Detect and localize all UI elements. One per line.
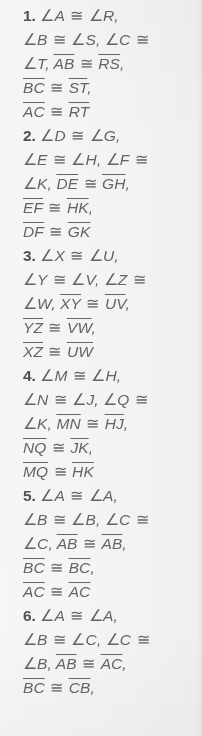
math-label: , — [90, 679, 94, 696]
item-number: 6. — [23, 607, 36, 624]
segment-name: CB — [69, 679, 91, 696]
segment-name: BC — [23, 79, 45, 96]
angle-icon: ∠ — [23, 271, 37, 288]
math-label: , — [89, 199, 93, 216]
angle-icon: ∠ — [40, 487, 54, 504]
congruent-icon: ≅ — [48, 463, 72, 480]
item-number: 4. — [23, 367, 36, 384]
congruent-icon: ≅ — [129, 391, 149, 408]
answer-line: 1. ∠A ≅ ∠R, — [23, 4, 200, 28]
math-label: H, — [106, 367, 122, 384]
answer-line: BC ≅ CB, — [23, 676, 200, 700]
math-label: , — [126, 175, 130, 192]
angle-icon: ∠ — [71, 511, 85, 528]
congruent-icon: ≅ — [43, 199, 67, 216]
answer-line: DF ≅ GK — [23, 220, 200, 244]
math-label: M — [54, 367, 67, 384]
segment-name: UW — [67, 343, 93, 360]
math-label: J, — [86, 391, 98, 408]
answer-item: 1. ∠A ≅ ∠R,∠B ≅ ∠S, ∠C ≅∠T, AB ≅ RS,BC ≅… — [23, 4, 200, 124]
angle-icon: ∠ — [103, 391, 117, 408]
math-label: , — [90, 559, 94, 576]
math-label: V, — [86, 271, 100, 288]
answer-line: ∠K, DE ≅ GH, — [23, 172, 200, 196]
answer-line: ∠W, XY ≅ UV, — [23, 292, 200, 316]
angle-icon: ∠ — [40, 367, 54, 384]
segment-name: VW — [67, 319, 92, 336]
angle-icon: ∠ — [89, 247, 103, 264]
item-number: 3. — [23, 247, 36, 264]
segment-name: YZ — [23, 319, 43, 336]
answer-line: ∠Y ≅ ∠V, ∠Z ≅ — [23, 268, 200, 292]
angle-icon: ∠ — [23, 511, 37, 528]
segment-name: AC — [23, 583, 45, 600]
math-label: C — [119, 31, 130, 48]
answer-line: ∠B, AB ≅ AC, — [23, 652, 200, 676]
angle-icon: ∠ — [71, 271, 85, 288]
angle-icon: ∠ — [105, 511, 119, 528]
angle-icon: ∠ — [40, 607, 54, 624]
segment-name: JK — [70, 439, 88, 456]
segment-name: AB — [56, 655, 77, 672]
segment-name: AC — [69, 583, 91, 600]
congruent-icon: ≅ — [81, 415, 105, 432]
angle-icon: ∠ — [89, 607, 103, 624]
angle-icon: ∠ — [91, 367, 105, 384]
angle-icon: ∠ — [106, 151, 120, 168]
math-label: B, — [86, 511, 101, 528]
math-label: , — [126, 295, 130, 312]
segment-name: BC — [69, 559, 91, 576]
segment-name: ST — [69, 79, 88, 96]
congruent-icon: ≅ — [65, 7, 89, 24]
math-label: B — [37, 511, 47, 528]
angle-icon: ∠ — [23, 175, 37, 192]
segment-name: AC — [23, 103, 45, 120]
congruent-icon: ≅ — [45, 583, 69, 600]
math-label: B — [37, 631, 47, 648]
segment-name: GH — [102, 175, 125, 192]
angle-icon: ∠ — [40, 7, 54, 24]
math-label: Q — [117, 391, 129, 408]
segment-name: EF — [23, 199, 43, 216]
angle-icon: ∠ — [23, 55, 37, 72]
segment-name: XZ — [23, 343, 43, 360]
segment-name: HJ — [105, 415, 124, 432]
math-label: U, — [103, 247, 119, 264]
congruent-icon: ≅ — [131, 631, 151, 648]
answer-line: ∠T, AB ≅ RS, — [23, 52, 200, 76]
answer-line: 5. ∠A ≅ ∠A, — [23, 484, 200, 508]
answer-line: 3. ∠X ≅ ∠U, — [23, 244, 200, 268]
angle-icon: ∠ — [23, 535, 37, 552]
angle-icon: ∠ — [89, 487, 103, 504]
angle-icon: ∠ — [90, 127, 104, 144]
segment-name: HK — [72, 463, 94, 480]
answer-item: 2. ∠D ≅ ∠G,∠E ≅ ∠H, ∠F ≅∠K, DE ≅ GH,EF ≅… — [23, 124, 200, 244]
answer-item: 4. ∠M ≅ ∠H,∠N ≅ ∠J, ∠Q ≅∠K, MN ≅ HJ,NQ ≅… — [23, 364, 200, 484]
congruent-icon: ≅ — [81, 295, 105, 312]
angle-icon: ∠ — [71, 631, 85, 648]
congruent-icon: ≅ — [130, 511, 150, 528]
answer-key-page: 1. ∠A ≅ ∠R,∠B ≅ ∠S, ∠C ≅∠T, AB ≅ RS,BC ≅… — [0, 0, 202, 736]
congruent-icon: ≅ — [65, 247, 89, 264]
congruent-icon: ≅ — [127, 271, 147, 288]
angle-icon: ∠ — [105, 31, 119, 48]
angle-icon: ∠ — [71, 31, 85, 48]
congruent-icon: ≅ — [48, 271, 72, 288]
math-label: K, — [37, 175, 52, 192]
math-label: N — [37, 391, 48, 408]
math-label: C — [120, 631, 131, 648]
segment-name: HK — [67, 199, 89, 216]
angle-icon: ∠ — [89, 7, 103, 24]
math-label: W, — [37, 295, 56, 312]
item-number: 1. — [23, 7, 36, 24]
answer-line: ∠B ≅ ∠B, ∠C ≅ — [23, 508, 200, 532]
segment-name: AC — [101, 655, 123, 672]
congruent-icon: ≅ — [43, 319, 67, 336]
segment-name: AB — [101, 535, 122, 552]
congruent-icon: ≅ — [74, 55, 98, 72]
angle-icon: ∠ — [23, 655, 37, 672]
segment-name: GK — [68, 223, 91, 240]
congruent-icon: ≅ — [45, 679, 69, 696]
angle-icon: ∠ — [104, 271, 118, 288]
segment-name: NQ — [23, 439, 46, 456]
